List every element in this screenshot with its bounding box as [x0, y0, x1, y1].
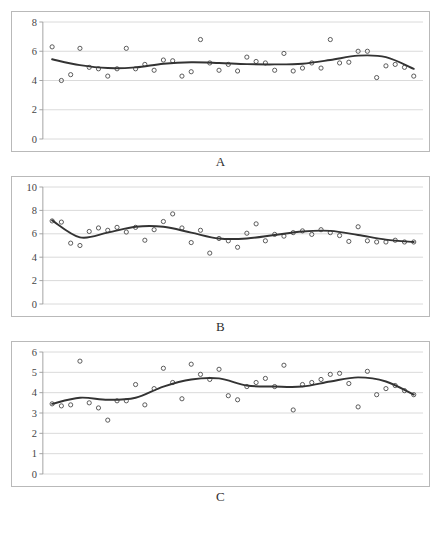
data-point	[235, 245, 239, 249]
data-point	[161, 58, 165, 62]
data-point	[319, 377, 323, 381]
data-point	[180, 74, 184, 78]
trend-line-a	[52, 55, 414, 68]
data-point	[282, 51, 286, 55]
y-tick-label-2: 2	[32, 104, 37, 115]
data-point	[254, 380, 258, 384]
chart-panel-a: 02468 A	[11, 11, 430, 174]
chart-body-b: 0246810	[26, 182, 423, 310]
data-point	[143, 403, 147, 407]
y-tick-label-10: 10	[26, 182, 36, 193]
data-point	[78, 46, 82, 50]
y-tick-label-8: 8	[32, 17, 37, 28]
data-point	[263, 376, 267, 380]
data-point	[189, 362, 193, 366]
y-tick-label-2: 2	[32, 275, 37, 286]
data-point	[337, 371, 341, 375]
panel-caption-a: A	[11, 152, 430, 174]
chart-body-c: 0123456	[32, 347, 423, 480]
data-point	[328, 37, 332, 41]
data-point	[347, 239, 351, 243]
data-point	[106, 74, 110, 78]
data-point	[59, 220, 63, 224]
data-point	[328, 372, 332, 376]
scatter-chart-c[interactable]: 0123456	[12, 342, 429, 486]
data-point	[78, 359, 82, 363]
data-point	[96, 406, 100, 410]
data-points-a	[50, 37, 416, 82]
scatter-chart-b[interactable]: 0246810	[12, 177, 429, 316]
data-point	[124, 46, 128, 50]
chart-plot-area-a: 02468	[11, 11, 430, 152]
y-tick-label-4: 4	[32, 252, 38, 263]
y-tick-label-5: 5	[32, 367, 37, 378]
data-point	[87, 229, 91, 233]
data-point	[189, 70, 193, 74]
data-point	[273, 68, 277, 72]
data-point	[161, 219, 165, 223]
data-point	[319, 66, 323, 70]
data-point	[263, 239, 267, 243]
data-point	[161, 366, 165, 370]
data-point	[254, 59, 258, 63]
data-point	[152, 68, 156, 72]
chart-panel-b: 0246810 B	[11, 176, 430, 339]
data-point	[106, 418, 110, 422]
y-tick-label-0: 0	[32, 469, 37, 480]
data-point	[180, 397, 184, 401]
data-point	[198, 228, 202, 232]
data-point	[245, 55, 249, 59]
chart-plot-area-b: 0246810	[11, 176, 430, 317]
data-point	[198, 372, 202, 376]
trend-line-c	[52, 377, 414, 403]
data-point	[87, 401, 91, 405]
data-point	[291, 408, 295, 412]
chart-plot-area-c: 0123456	[11, 341, 430, 487]
data-point	[347, 381, 351, 385]
data-point	[208, 251, 212, 255]
data-point	[198, 37, 202, 41]
data-point	[356, 225, 360, 229]
data-point	[69, 403, 73, 407]
data-point	[235, 398, 239, 402]
y-tick-label-3: 3	[32, 408, 37, 419]
data-point	[50, 45, 54, 49]
data-point	[384, 387, 388, 391]
data-point	[217, 68, 221, 72]
data-point	[171, 212, 175, 216]
data-point	[133, 382, 137, 386]
data-point	[412, 74, 416, 78]
data-point	[375, 393, 379, 397]
data-point	[310, 232, 314, 236]
chart-panel-c: 0123456 C	[11, 341, 430, 509]
data-point	[347, 60, 351, 64]
figure-container: 02468 A 0246810 B 0123456 C	[0, 0, 439, 533]
y-tick-label-0: 0	[32, 134, 37, 145]
data-point	[152, 228, 156, 232]
data-point	[375, 240, 379, 244]
data-point	[189, 240, 193, 244]
y-tick-label-4: 4	[32, 387, 38, 398]
data-point	[337, 61, 341, 65]
panel-caption-b: B	[11, 317, 430, 339]
data-point	[356, 405, 360, 409]
data-point	[143, 238, 147, 242]
y-tick-label-8: 8	[32, 205, 37, 216]
data-point	[226, 394, 230, 398]
y-tick-label-2: 2	[32, 428, 37, 439]
y-tick-label-6: 6	[32, 347, 37, 358]
data-point	[300, 66, 304, 70]
y-tick-label-0: 0	[32, 299, 37, 310]
scatter-chart-a[interactable]: 02468	[12, 12, 429, 151]
data-point	[217, 367, 221, 371]
trend-line-b	[52, 220, 414, 242]
panel-caption-c: C	[11, 487, 430, 509]
data-point	[59, 404, 63, 408]
data-point	[69, 241, 73, 245]
data-point	[384, 64, 388, 68]
data-point	[245, 231, 249, 235]
chart-body-a: 02468	[32, 17, 423, 145]
data-point	[365, 239, 369, 243]
y-tick-label-1: 1	[32, 448, 37, 459]
data-point	[115, 225, 119, 229]
